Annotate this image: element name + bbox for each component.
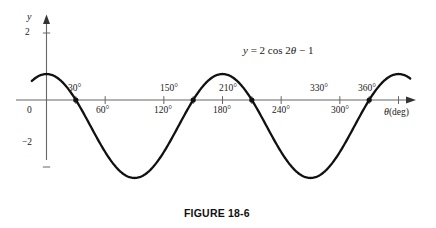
equation-annotation: y = 2 cos 2θ − 1 [243,45,313,56]
x-axis-label-group: θ(deg) [384,107,409,118]
equation-theta: θ [291,44,296,56]
equation-tail: − 1 [299,44,313,56]
x-tick-label-210: 210° [219,84,237,94]
x-axis-arrowhead [406,96,416,103]
zero-crossing-dot-150 [191,97,196,102]
equation-body: = 2 cos 2 [251,44,291,56]
origin-label: 0 [27,106,32,116]
x-tick-label-330: 330° [310,84,328,94]
figure-container: y 2 −2 0 60° 120° 180° 240° 300° 30° 150… [0,0,436,228]
equation-y: y [243,44,248,56]
x-tick-label-180: 180° [213,106,231,116]
x-axis-unit: (deg) [389,107,409,117]
y-tick-label-minus2: −2 [22,138,32,148]
x-tick-label-150: 150° [160,84,178,94]
x-tick-label-240: 240° [272,106,290,116]
y-axis-label: y [27,12,31,22]
y-tick-label-2: 2 [25,28,30,38]
x-tick-label-30: 30° [68,84,81,94]
zero-crossing-dot-330 [367,97,372,102]
zero-crossing-dot-30 [73,97,78,102]
x-tick-label-60: 60° [96,106,109,116]
x-tick-label-120: 120° [154,106,172,116]
x-tick-label-360: 360° [358,84,376,94]
figure-caption: FIGURE 18-6 [184,207,250,219]
x-tick-label-300: 300° [331,106,349,116]
zero-crossing-dot-210 [249,97,254,102]
y-axis-arrowhead [43,15,50,25]
